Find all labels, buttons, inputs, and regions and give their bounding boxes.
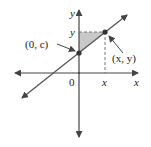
x-axis-label: x <box>133 76 139 88</box>
intercept-pointer <box>57 44 75 51</box>
general-point <box>102 29 107 34</box>
origin-label: 0 <box>69 76 75 88</box>
y-guide-label: y <box>69 26 75 38</box>
y-axis-label: y <box>69 7 75 19</box>
general-point-label: (x, y) <box>112 52 136 65</box>
x-guide-label: x <box>101 76 107 88</box>
intercept-point <box>76 50 81 55</box>
linear-function-line <box>22 63 66 98</box>
general-pointer <box>109 36 123 53</box>
coordinate-diagram: y y (0, c) (x, y) 0 x x <box>0 0 151 147</box>
intercept-label: (0, c) <box>25 38 49 51</box>
